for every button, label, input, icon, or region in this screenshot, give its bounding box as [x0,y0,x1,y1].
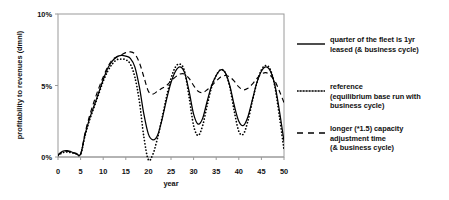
x-tick-label: 20 [144,167,152,176]
y-tick-label: 5% [41,82,52,91]
y-tick-label: 0% [41,153,52,162]
legend-label-line: adjustment time [330,134,449,144]
x-tick-label: 0 [56,167,60,176]
x-tick-label: 50 [280,167,288,176]
legend-label-line: quarter of the fleet is 1yr [330,35,449,45]
legend-label-dashed: longer (*1.5) capacity adjustment time (… [330,124,449,153]
legend-sample-dotted-icon [297,87,325,95]
x-tick-label: 25 [167,167,175,176]
y-axis-title: profitability to revenues (dmnl) [15,30,24,139]
x-tick-label: 35 [212,167,220,176]
legend-sample-dashed-icon [297,129,325,137]
x-tick-label: 40 [235,167,243,176]
x-tick-label: 45 [257,167,265,176]
x-tick-labels: 0 5 10 15 20 25 30 35 40 45 50 [56,167,288,176]
y-tick-labels: 10% 5% 0% [37,10,52,162]
legend-label-line: leased (& business cycle) [330,45,449,55]
legend-label-dotted: reference (equilibrium base run with bus… [330,82,449,111]
legend-label-line: business cycle) [330,101,449,111]
x-axis-title: year [163,179,178,188]
legend-label-line: reference [330,82,449,92]
legend-label-line: (& business cycle) [330,143,449,153]
y-tick-label: 10% [37,10,52,19]
x-tick-label: 5 [79,167,83,176]
legend-label-solid: quarter of the fleet is 1yr leased (& bu… [330,35,449,54]
chart-figure: 10% 5% 0% 0 5 10 15 20 25 30 35 40 45 50… [0,0,449,200]
x-tick-label: 10 [99,167,107,176]
legend-label-line: longer (*1.5) capacity [330,124,449,134]
x-tick-label: 30 [189,167,197,176]
legend-sample-solid-icon [297,40,325,48]
legend-label-line: (equilibrium base run with [330,92,449,102]
x-tick-label: 15 [122,167,130,176]
plot-frame [58,14,284,157]
